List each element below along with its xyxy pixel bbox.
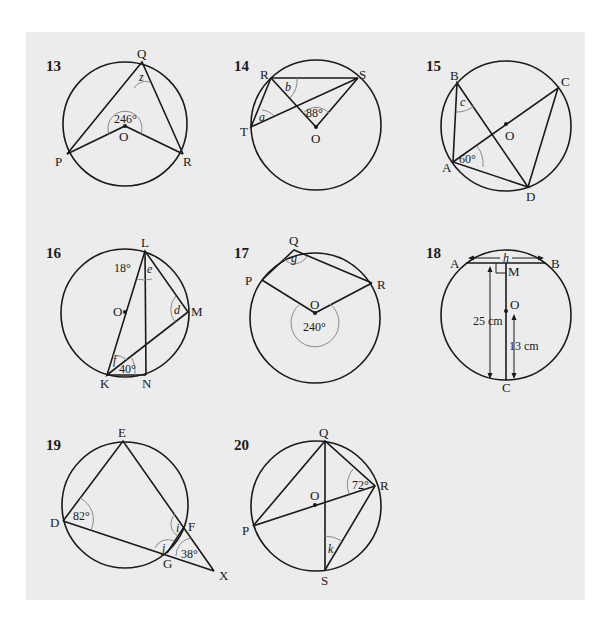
exercise-number: 17 bbox=[234, 245, 250, 261]
unknown-z: z bbox=[138, 70, 144, 84]
label-l: L bbox=[141, 235, 149, 250]
figure-16: 16 L M O K N 18° e d f 40° bbox=[46, 235, 203, 391]
center-dot bbox=[504, 122, 508, 126]
exercise-number: 20 bbox=[234, 437, 249, 453]
length-13cm: 13 cm bbox=[509, 339, 539, 353]
exercise-number: 19 bbox=[46, 437, 61, 453]
angle-72: 72° bbox=[352, 478, 369, 492]
angle-18: 18° bbox=[114, 261, 131, 275]
label-o: O bbox=[311, 131, 320, 146]
label-p: P bbox=[245, 273, 252, 288]
label-r: R bbox=[183, 154, 192, 169]
label-c: C bbox=[502, 380, 511, 395]
label-o: O bbox=[310, 488, 319, 503]
label-t: T bbox=[240, 124, 248, 139]
figure-20: 20 Q P R O S 72° k bbox=[234, 425, 389, 588]
label-o: O bbox=[505, 128, 514, 143]
unknown-k: k bbox=[328, 542, 334, 556]
label-k: K bbox=[100, 376, 110, 391]
angle-arc-60 bbox=[477, 146, 483, 167]
unknown-a: a bbox=[259, 110, 265, 124]
label-r: R bbox=[380, 478, 389, 493]
figure-18: 18 A B M O C h 25 cm 13 cm bbox=[426, 245, 571, 395]
angle-88: 88° bbox=[306, 106, 323, 120]
length-25cm: 25 cm bbox=[473, 314, 503, 328]
angle-60: 60° bbox=[459, 152, 476, 166]
exercise-number: 14 bbox=[234, 58, 250, 74]
label-a: A bbox=[442, 160, 452, 175]
center-dot bbox=[314, 125, 318, 129]
label-o: O bbox=[113, 304, 122, 319]
angle-arc-k bbox=[325, 536, 342, 541]
arrow-up-icon bbox=[488, 266, 493, 272]
center-dot bbox=[313, 503, 317, 507]
angle-240: 240° bbox=[303, 320, 326, 334]
angle-38: 38° bbox=[181, 547, 198, 561]
unknown-h: h bbox=[503, 251, 509, 265]
label-e: E bbox=[118, 425, 126, 440]
label-p: P bbox=[55, 154, 62, 169]
line-ln bbox=[145, 251, 146, 375]
triangle-rst bbox=[251, 78, 358, 127]
label-f: F bbox=[188, 519, 195, 534]
label-s: S bbox=[359, 67, 366, 82]
figure-14: 14 R S T O b a 88° bbox=[234, 58, 381, 190]
label-q: Q bbox=[319, 425, 329, 440]
label-s: S bbox=[321, 573, 328, 588]
unknown-i: i bbox=[176, 521, 179, 535]
label-b: B bbox=[450, 68, 459, 83]
exercise-number: 18 bbox=[426, 245, 441, 261]
label-g: G bbox=[163, 556, 172, 571]
label-q: Q bbox=[137, 46, 147, 61]
angle-82: 82° bbox=[73, 509, 90, 523]
unknown-b: b bbox=[285, 80, 291, 94]
label-d: D bbox=[526, 189, 535, 204]
figure-15: 15 B C A D O c 60° bbox=[426, 58, 571, 204]
figure-13: 13 Q P R O z 246° bbox=[46, 46, 192, 186]
figure-17: 17 Q P R O g 240° bbox=[234, 233, 386, 383]
angle-arc-b bbox=[290, 78, 297, 98]
label-p: P bbox=[242, 523, 249, 538]
unknown-c: c bbox=[460, 95, 466, 109]
center-dot bbox=[123, 310, 127, 314]
label-m: M bbox=[508, 264, 520, 279]
exercise-number: 16 bbox=[46, 245, 62, 261]
arrow-up-icon bbox=[512, 314, 517, 320]
label-m: M bbox=[191, 304, 203, 319]
angle-246: 246° bbox=[114, 112, 137, 126]
label-d: D bbox=[50, 515, 59, 530]
label-q: Q bbox=[289, 233, 299, 248]
circle-theorem-exercises: 13 Q P R O z 246° 14 R S T O b a 88° 15 bbox=[0, 0, 606, 628]
label-r: R bbox=[377, 277, 386, 292]
figure-19: 19 E D F G X 82° i j 38° bbox=[46, 425, 229, 583]
label-x: X bbox=[219, 568, 229, 583]
exercise-number: 13 bbox=[46, 58, 61, 74]
unknown-g: g bbox=[291, 251, 297, 265]
label-r: R bbox=[260, 67, 269, 82]
center-dot bbox=[504, 309, 508, 313]
exercise-number: 15 bbox=[426, 58, 441, 74]
label-b: B bbox=[551, 256, 560, 271]
unknown-d: d bbox=[174, 303, 181, 317]
angle-40: 40° bbox=[119, 362, 136, 376]
unknown-e: e bbox=[147, 262, 153, 276]
label-o: O bbox=[310, 297, 319, 312]
label-o: O bbox=[119, 129, 128, 144]
label-n: N bbox=[142, 376, 152, 391]
label-c: C bbox=[561, 74, 570, 89]
label-o: O bbox=[510, 297, 519, 312]
arrow-down-icon bbox=[512, 373, 517, 379]
label-a: A bbox=[450, 256, 460, 271]
